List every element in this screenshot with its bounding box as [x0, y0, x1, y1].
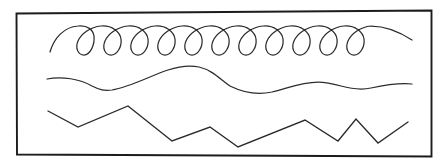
line-types-figure	[0, 0, 447, 168]
figure-background	[0, 0, 447, 168]
figure-root	[0, 0, 447, 168]
